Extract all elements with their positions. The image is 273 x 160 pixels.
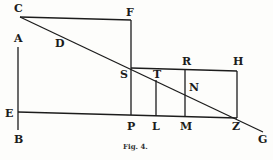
- label-T: T: [153, 68, 162, 81]
- label-D: D: [55, 37, 65, 50]
- label-A: A: [13, 32, 23, 45]
- label-M: M: [180, 120, 192, 133]
- label-H: H: [233, 55, 243, 68]
- label-R: R: [182, 55, 192, 68]
- label-S: S: [120, 68, 128, 81]
- label-Z: Z: [232, 120, 240, 133]
- segment-EZ: [18, 112, 237, 118]
- label-C: C: [14, 2, 23, 15]
- figure-caption: Fig. 4.: [123, 142, 148, 151]
- label-B: B: [14, 133, 23, 146]
- label-P: P: [127, 120, 135, 133]
- segment-SH: [131, 68, 237, 71]
- geometry-figure: C F A D S T R H N E B P L M Z G Fig. 4.: [0, 0, 273, 160]
- label-F: F: [126, 6, 134, 19]
- label-N: N: [189, 81, 199, 94]
- label-G: G: [258, 133, 267, 146]
- label-E: E: [5, 107, 13, 120]
- label-L: L: [152, 120, 160, 133]
- segment-CF: [20, 17, 131, 20]
